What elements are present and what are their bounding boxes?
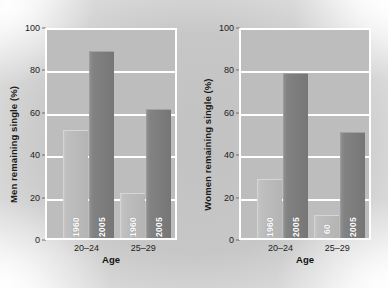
y-tick-label: 40 [224,150,234,160]
bar-1960[interactable]: 1960 [257,179,282,238]
y-tick-label: 40 [30,150,40,160]
y-tick-label: 20 [30,193,40,203]
bar-60[interactable]: 60 [314,215,339,238]
bar-value-label: 2005 [291,217,301,237]
bar-2005[interactable]: 2005 [340,132,365,238]
bar-1960[interactable]: 1960 [63,130,88,238]
x-category-label: 20–24 [268,243,293,253]
bar-2005[interactable]: 2005 [283,73,308,238]
plot-area-women: 19602005602005 [239,28,371,240]
bar-value-label: 2005 [348,217,358,237]
plot-area-men: 1960200519602005 [45,28,177,240]
x-category-label: 20–24 [74,243,99,253]
y-axis-ticks-women: 100806040200 [212,28,236,240]
x-category-label: 25–29 [131,243,156,253]
y-tick-label: 80 [30,65,40,75]
chart-figure: Men remaining single (%) 100806040200 19… [0,0,388,288]
bar-value-label: 60 [322,224,332,234]
chart-panel-women: Women remaining single (%) 100806040200 … [194,0,388,288]
bar-value-label: 2005 [154,217,164,237]
chart-panel-men: Men remaining single (%) 100806040200 19… [0,0,194,288]
y-tick-label: 100 [25,23,40,33]
y-tick-label: 60 [30,108,40,118]
x-axis-title-men: Age [45,254,177,265]
y-axis-title-women-text: Women remaining single (%) [202,78,213,210]
bar-value-label: 1960 [128,217,138,237]
y-tick-label: 0 [35,235,40,245]
bar-2005[interactable]: 2005 [146,109,171,238]
bar-1960[interactable]: 1960 [120,193,145,238]
y-axis-title-men-text: Men remaining single (%) [8,86,19,203]
bar-series-men: 1960200519602005 [47,30,175,238]
bar-value-label: 1960 [71,217,81,237]
bar-series-women: 19602005602005 [241,30,369,238]
x-category-label: 25–29 [325,243,350,253]
bar-value-label: 1960 [265,217,275,237]
bar-2005[interactable]: 2005 [89,51,114,238]
y-tick-label: 100 [219,23,234,33]
x-axis-title-women: Age [239,254,371,265]
y-tick-label: 60 [224,108,234,118]
y-tick-label: 20 [224,193,234,203]
y-tick-label: 0 [229,235,234,245]
bar-value-label: 2005 [97,217,107,237]
y-tick-label: 80 [224,65,234,75]
y-axis-ticks-men: 100806040200 [18,28,42,240]
